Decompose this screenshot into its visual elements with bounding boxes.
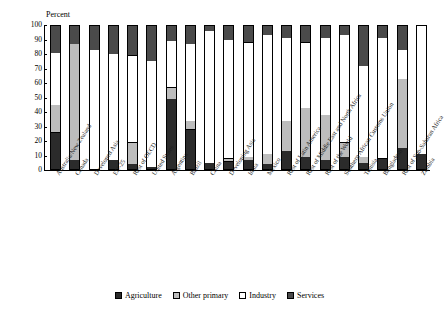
bar-segment-services	[223, 25, 234, 40]
bar-segment-industry	[89, 50, 100, 169]
y-tick-label: 40	[35, 108, 45, 116]
legend-item-services[interactable]: Services	[287, 291, 324, 300]
bar-bangladesh	[377, 25, 388, 170]
legend-swatch-otherprimary-icon	[173, 292, 180, 299]
bar-rest-of-oecd	[127, 25, 138, 170]
chart-legend: AgricultureOther primaryIndustryServices	[0, 291, 439, 300]
bar-segment-otherprimary	[185, 121, 196, 130]
legend-swatch-services-icon	[287, 292, 294, 299]
bar-rest-of-latin-america	[281, 25, 292, 170]
bar-segment-industry	[281, 38, 292, 121]
y-tick-label: 60	[35, 79, 45, 87]
bar-segment-services	[262, 25, 273, 35]
bar-segment-services	[281, 25, 292, 38]
bar-segment-industry	[185, 44, 196, 121]
y-tick-label: 20	[35, 137, 45, 145]
bar-segment-services	[185, 25, 196, 44]
bar-segment-industry	[300, 42, 311, 107]
bar-segment-services	[397, 25, 408, 50]
y-tick-mark	[44, 170, 47, 171]
bar-segment-services	[339, 25, 350, 35]
bar-australia-new-zealand	[50, 25, 61, 170]
bar-segment-services	[377, 25, 388, 38]
legend-label: Industry	[249, 291, 276, 300]
y-axis-title: Percent	[46, 11, 70, 19]
bar-segment-services	[69, 25, 80, 44]
bar-segment-services	[166, 25, 177, 41]
bar-segment-industry	[127, 55, 138, 142]
legend-label: Other primary	[183, 291, 229, 300]
legend-item-agriculture[interactable]: Agriculture	[115, 291, 162, 300]
legend-item-industry[interactable]: Industry	[239, 291, 276, 300]
y-tick-label: 50	[35, 94, 45, 102]
bar-segment-otherprimary	[397, 79, 408, 149]
bar-segment-industry	[166, 41, 177, 87]
bar-segment-otherprimary	[223, 158, 234, 161]
bar-segment-otherprimary	[281, 121, 292, 151]
bar-segment-industry	[50, 53, 61, 105]
y-tick-label: 80	[35, 50, 45, 58]
y-tick-label: 90	[35, 36, 45, 44]
bar-mexico	[262, 25, 273, 170]
bar-segment-services	[108, 25, 119, 54]
bar-segment-services	[320, 25, 331, 38]
bar-segment-industry	[223, 40, 234, 159]
bar-developed-asia	[89, 25, 100, 170]
bar-segment-services	[50, 25, 61, 53]
bar-segment-services	[204, 25, 215, 31]
bar-segment-otherprimary	[166, 87, 177, 99]
bar-segment-industry	[397, 50, 408, 79]
bar-brazil	[185, 25, 196, 170]
legend-label: Services	[297, 291, 324, 300]
bar-segment-industry	[377, 38, 388, 158]
bar-segment-otherprimary	[50, 105, 61, 133]
bar-segment-services	[300, 25, 311, 42]
bar-segment-otherprimary	[127, 142, 138, 164]
bar-segment-services	[89, 25, 100, 50]
y-tick-label: 10	[35, 152, 45, 160]
legend-label: Agriculture	[125, 291, 162, 300]
bar-segment-services	[358, 25, 369, 66]
bar-segment-services	[146, 25, 157, 61]
y-tick-label: 100	[31, 21, 44, 29]
legend-swatch-industry-icon	[239, 292, 246, 299]
bar-segment-industry	[204, 31, 215, 163]
bar-segment-industry	[320, 38, 331, 115]
legend-item-otherprimary[interactable]: Other primary	[173, 291, 229, 300]
plot-area	[44, 25, 429, 170]
y-tick-label: 30	[35, 123, 45, 131]
bar-segment-services	[243, 25, 254, 42]
bar-developing-asia	[223, 25, 234, 170]
bar-china	[204, 25, 215, 170]
legend-swatch-agriculture-icon	[115, 292, 122, 299]
bar-segment-services	[127, 25, 138, 55]
y-tick-label: 70	[35, 65, 45, 73]
bar-segment-industry	[262, 35, 273, 154]
